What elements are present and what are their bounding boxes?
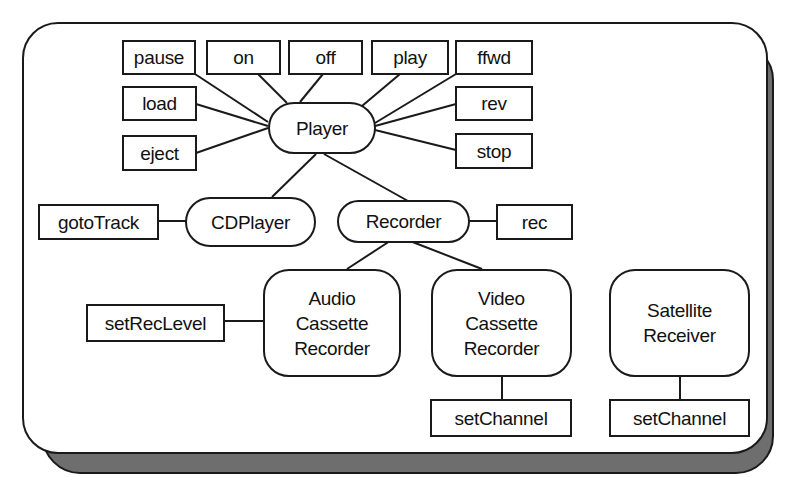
- class-recorder: Recorder: [337, 200, 470, 243]
- method-gototrack: gotoTrack: [38, 204, 159, 240]
- class-cdplayer: CDPlayer: [185, 197, 316, 247]
- method-stop: stop: [455, 133, 533, 169]
- edge-player-play: [362, 74, 400, 106]
- edge-player-eject: [196, 128, 268, 153]
- edge-player-off: [300, 74, 323, 102]
- edge-recorder-audio: [347, 241, 390, 269]
- method-on: on: [206, 40, 281, 75]
- method-eject: eject: [122, 135, 197, 171]
- edge-recorder-video: [410, 241, 482, 269]
- method-ffwd: ffwd: [455, 40, 533, 75]
- method-rec: rec: [496, 204, 573, 240]
- method-load: load: [122, 86, 197, 121]
- method-rev: rev: [455, 86, 533, 121]
- edge-player-stop: [375, 130, 456, 150]
- method-setreclevel: setRecLevel: [86, 304, 225, 342]
- method-setchannel-vcr: setChannel: [430, 399, 572, 437]
- class-video-cassette-recorder: Video Cassette Recorder: [431, 269, 572, 377]
- class-player: Player: [268, 102, 376, 154]
- edge-player-cdplayer: [272, 154, 316, 197]
- edge-player-on: [258, 74, 287, 103]
- edge-player-recorder: [324, 154, 408, 201]
- method-setchannel-satellite: setChannel: [609, 399, 750, 437]
- method-pause: pause: [122, 40, 196, 75]
- method-off: off: [288, 40, 363, 75]
- class-audio-cassette-recorder: Audio Cassette Recorder: [263, 269, 401, 377]
- method-play: play: [371, 40, 449, 75]
- class-satellite-receiver: Satellite Receiver: [609, 269, 750, 377]
